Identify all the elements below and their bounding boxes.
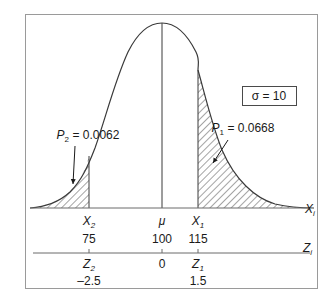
z-tick-value-neg25: –2.5	[77, 274, 101, 288]
x-tick-value-115: 115	[188, 232, 207, 246]
z-tick-value-15: 1.5	[190, 274, 207, 288]
x-tick-value-75: 75	[82, 232, 96, 246]
figure-frame	[26, 15, 318, 289]
z-tick-symbol-zero: 0	[159, 257, 166, 271]
x-tick-value-100: 100	[152, 232, 172, 246]
x-tick-symbol-mu: μ	[158, 214, 166, 228]
normal-distribution-figure: Xi X2 μ X1 75 100 115 Zi Z2 0 Z1 –2.5 1.…	[0, 0, 334, 302]
sigma-annotation-label: σ = 10	[252, 89, 287, 103]
distribution-diagram: Xi X2 μ X1 75 100 115 Zi Z2 0 Z1 –2.5 1.…	[0, 0, 334, 302]
